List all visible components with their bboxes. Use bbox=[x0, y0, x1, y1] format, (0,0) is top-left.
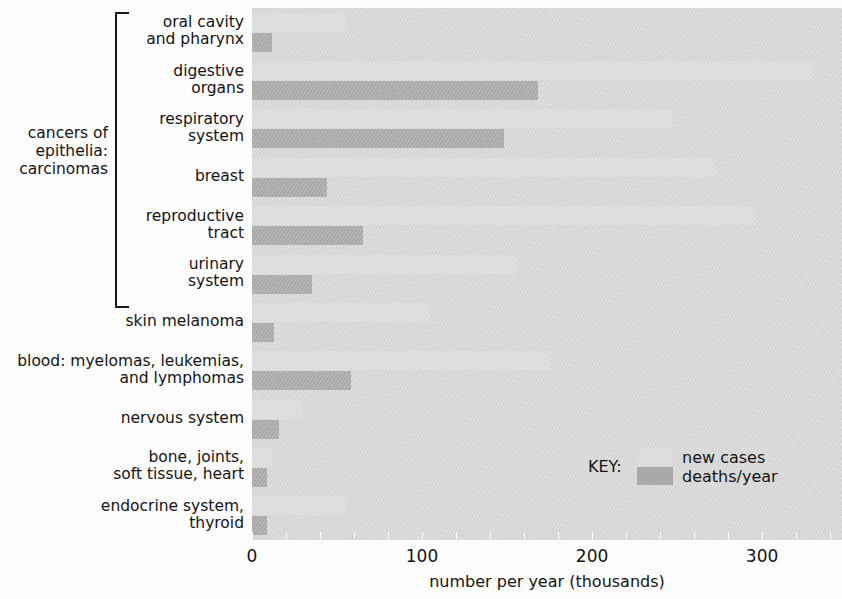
legend-key-label: KEY: bbox=[588, 457, 622, 476]
category-label-10: endocrine system, thyroid bbox=[0, 498, 244, 532]
bar-deaths-1 bbox=[252, 81, 538, 100]
bar-texture bbox=[252, 226, 363, 245]
bar-texture bbox=[252, 206, 755, 225]
x-axis-tick bbox=[252, 532, 253, 541]
x-axis-tick bbox=[796, 532, 797, 539]
x-axis-tick bbox=[762, 532, 763, 541]
x-axis-tick bbox=[558, 532, 559, 539]
bar-texture bbox=[252, 129, 504, 148]
bar-texture bbox=[252, 323, 274, 342]
legend-swatch-new-cases bbox=[637, 448, 673, 466]
x-axis-tick bbox=[286, 532, 287, 539]
bar-new-cases-4 bbox=[252, 206, 755, 225]
bar-texture bbox=[252, 158, 716, 177]
legend-label-new-cases: new cases bbox=[682, 448, 765, 467]
x-axis-tick bbox=[830, 532, 831, 539]
x-axis-title: number per year (thousands) bbox=[252, 572, 842, 591]
bar-deaths-4 bbox=[252, 226, 363, 245]
x-axis-tick bbox=[626, 532, 627, 539]
bar-deaths-6 bbox=[252, 323, 274, 342]
x-axis-tick bbox=[456, 532, 457, 539]
bar-new-cases-10 bbox=[252, 496, 346, 515]
bar-texture bbox=[252, 420, 279, 439]
bar-new-cases-2 bbox=[252, 109, 672, 128]
bar-texture bbox=[252, 371, 351, 390]
bar-new-cases-8 bbox=[252, 400, 303, 419]
bar-deaths-8 bbox=[252, 420, 279, 439]
category-label-3: breast bbox=[0, 168, 244, 185]
bar-deaths-2 bbox=[252, 129, 504, 148]
bar-texture bbox=[252, 468, 267, 487]
x-axis-tick bbox=[422, 532, 423, 541]
bar-deaths-5 bbox=[252, 275, 312, 294]
bar-texture bbox=[252, 81, 538, 100]
x-axis-tick-label-100: 100 bbox=[406, 546, 438, 566]
bar-new-cases-0 bbox=[252, 13, 347, 32]
x-axis-tick-label-200: 200 bbox=[576, 546, 608, 566]
bar-new-cases-6 bbox=[252, 303, 429, 322]
bar-texture bbox=[252, 33, 272, 52]
bar-new-cases-5 bbox=[252, 255, 517, 274]
bar-texture bbox=[252, 351, 551, 370]
category-label-8: nervous system bbox=[0, 410, 244, 427]
category-label-7: blood: myelomas, leukemias, and lymphoma… bbox=[0, 353, 244, 387]
bar-texture bbox=[252, 496, 346, 515]
x-axis-tick bbox=[490, 532, 491, 539]
x-axis-tick bbox=[592, 532, 593, 541]
x-axis-tick-label-300: 300 bbox=[746, 546, 778, 566]
bar-new-cases-3 bbox=[252, 158, 716, 177]
legend-swatch-deaths bbox=[637, 467, 673, 485]
bar-deaths-9 bbox=[252, 468, 267, 487]
category-label-9: bone, joints, soft tissue, heart bbox=[0, 449, 244, 483]
x-axis-tick bbox=[728, 532, 729, 539]
x-axis-tick-label-0: 0 bbox=[247, 546, 258, 566]
category-label-1: digestive organs bbox=[0, 63, 244, 97]
bar-texture bbox=[252, 275, 312, 294]
legend-label-deaths: deaths/year bbox=[682, 467, 778, 486]
x-axis-tick bbox=[320, 532, 321, 539]
bar-new-cases-7 bbox=[252, 351, 551, 370]
bar-new-cases-1 bbox=[252, 61, 813, 80]
chart-figure: cancers of epithelia: carcinomas oral ca… bbox=[0, 0, 842, 599]
bar-texture bbox=[252, 448, 272, 467]
bar-texture bbox=[252, 255, 517, 274]
bar-deaths-3 bbox=[252, 178, 327, 197]
x-axis-tick bbox=[524, 532, 525, 539]
bar-texture bbox=[252, 61, 813, 80]
category-label-5: urinary system bbox=[0, 256, 244, 290]
bar-new-cases-9 bbox=[252, 448, 272, 467]
bar-texture bbox=[252, 109, 672, 128]
x-axis-tick bbox=[388, 532, 389, 539]
bar-deaths-10 bbox=[252, 516, 267, 535]
category-label-2: respiratory system bbox=[0, 111, 244, 145]
bar-texture bbox=[252, 178, 327, 197]
x-axis-tick bbox=[660, 532, 661, 539]
category-label-0: oral cavity and pharynx bbox=[0, 14, 244, 48]
bar-deaths-7 bbox=[252, 371, 351, 390]
bar-texture bbox=[252, 303, 429, 322]
bar-texture bbox=[252, 516, 267, 535]
bar-texture bbox=[252, 400, 303, 419]
bar-texture bbox=[252, 13, 347, 32]
x-axis-tick bbox=[354, 532, 355, 539]
category-label-6: skin melanoma bbox=[0, 313, 244, 330]
bar-deaths-0 bbox=[252, 33, 272, 52]
category-label-4: reproductive tract bbox=[0, 208, 244, 242]
x-axis-tick bbox=[694, 532, 695, 539]
